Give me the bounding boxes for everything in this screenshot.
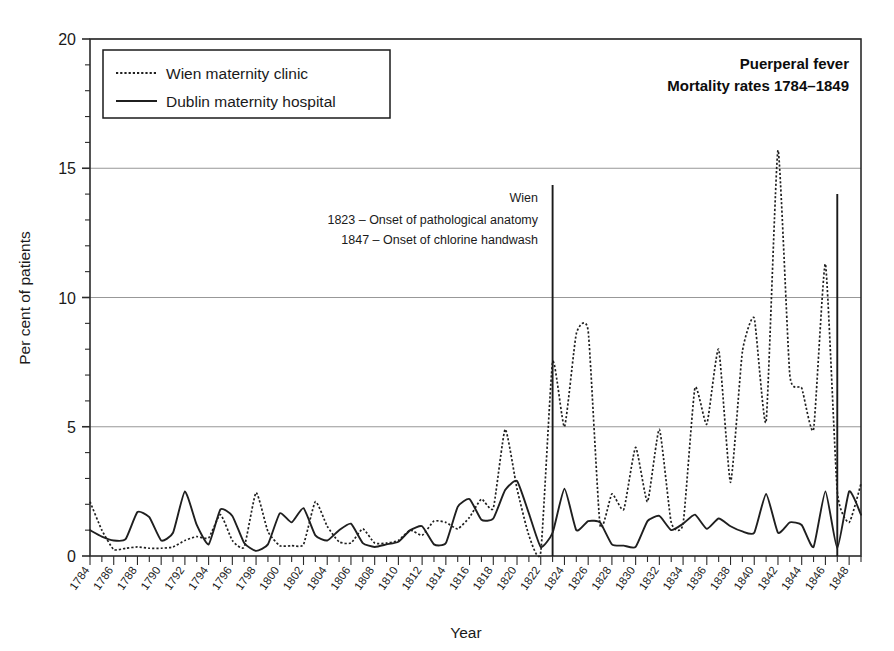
annotation-line-1847: 1847 – Onset of chlorine handwash [341,233,538,247]
y-tick-label-15: 15 [58,160,76,177]
chart-title-line1: Puerperal fever [740,55,849,72]
legend: Wien maternity clinic Dublin maternity h… [103,50,390,118]
puerperal-fever-line-chart: 05101520 1784178617881790179217941796179… [0,0,894,651]
annotation-line-1823: 1823 – Onset of pathological anatomy [327,213,538,227]
chart-title-line2: Mortality rates 1784–1849 [667,77,849,94]
y-tick-label-10: 10 [58,290,76,307]
y-tick-label-0: 0 [67,548,76,565]
annotation-line-wien: Wien [510,191,539,205]
legend-label-dublin: Dublin maternity hospital [166,93,336,110]
legend-label-wien: Wien maternity clinic [166,65,308,82]
y-tick-label-20: 20 [58,31,76,48]
y-axis-title: Per cent of patients [16,231,33,365]
y-tick-label-5: 5 [67,419,76,436]
chart-page: 05101520 1784178617881790179217941796179… [0,0,894,651]
x-axis-title: Year [450,624,481,641]
